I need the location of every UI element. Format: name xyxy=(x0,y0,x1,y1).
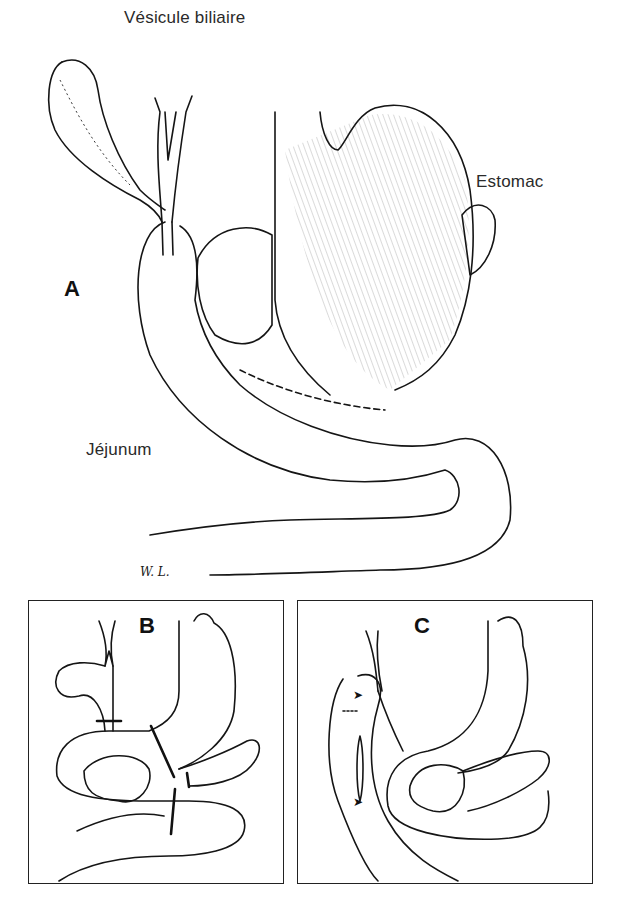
stomach-drawing xyxy=(240,105,473,410)
panel-c-frame: ➤ ➤ C xyxy=(297,600,593,884)
gallbladder-drawing xyxy=(49,60,165,222)
panel-c-letter: C xyxy=(414,613,430,639)
gallbladder-label: Vésicule biliaire xyxy=(124,8,246,28)
arrow-icon: ➤ xyxy=(353,688,363,702)
panel-a-illustration xyxy=(0,0,617,580)
stomach-label: Estomac xyxy=(476,172,544,192)
panel-b-frame: B xyxy=(28,600,284,884)
panel-b-letter: B xyxy=(139,613,155,639)
panel-b-illustration xyxy=(29,601,285,885)
artist-signature: W. L. xyxy=(140,565,170,579)
panel-a-letter: A xyxy=(64,276,80,302)
arrow-icon: ➤ xyxy=(353,795,363,809)
panel-c-illustration: ➤ ➤ xyxy=(298,601,594,885)
jejunum-label: Jéjunum xyxy=(86,440,152,460)
